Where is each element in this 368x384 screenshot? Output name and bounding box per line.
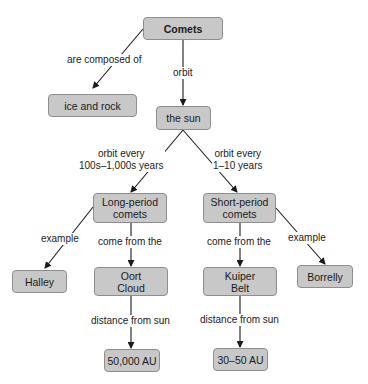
node-text-line: Short-period xyxy=(211,196,269,208)
node-the-sun: the sun xyxy=(156,106,211,130)
node-30-50-au: 30–50 AU xyxy=(213,348,268,371)
link-label-composed: are composed of xyxy=(66,54,143,66)
link-label-line: 1–10 years xyxy=(213,160,262,172)
node-borrelly: Borrelly xyxy=(297,265,353,288)
node-oort-cloud: Oort Cloud xyxy=(94,267,168,296)
node-long-period-comets: Long-period comets xyxy=(93,193,167,223)
node-text-line: comets xyxy=(113,208,147,220)
link-label-dist-short: distance from sun xyxy=(199,314,280,326)
node-halley: Halley xyxy=(12,270,67,293)
node-ice-and-rock: ice and rock xyxy=(48,94,137,117)
concept-map-lines xyxy=(0,0,368,384)
link-label-from-long: come from the xyxy=(97,236,163,248)
node-text-line: comets xyxy=(223,208,257,220)
link-label-orbit-long: orbit every 100s–1,000s years xyxy=(78,148,165,172)
link-label-from-short: come from the xyxy=(206,236,272,248)
node-text-line: Kuiper xyxy=(225,270,255,282)
node-text-line: Long-period xyxy=(102,196,158,208)
node-text-line: Oort xyxy=(121,270,141,282)
node-short-period-comets: Short-period comets xyxy=(203,193,276,223)
node-kuiper-belt: Kuiper Belt xyxy=(203,267,277,296)
link-label-example-long: example xyxy=(40,233,80,245)
link-label-orbit-short: orbit every 1–10 years xyxy=(212,148,263,172)
node-text-line: Belt xyxy=(231,282,249,294)
link-label-line: orbit every xyxy=(79,148,164,160)
node-comets: Comets xyxy=(143,17,223,40)
node-50000-au: 50,000 AU xyxy=(104,349,160,372)
link-label-orbit: orbit xyxy=(172,67,193,79)
link-label-dist-long: distance from sun xyxy=(90,315,171,327)
link-label-example-short: example xyxy=(287,232,327,244)
link-label-line: 100s–1,000s years xyxy=(79,160,164,172)
node-text-line: Cloud xyxy=(117,282,144,294)
link-label-line: orbit every xyxy=(213,148,262,160)
